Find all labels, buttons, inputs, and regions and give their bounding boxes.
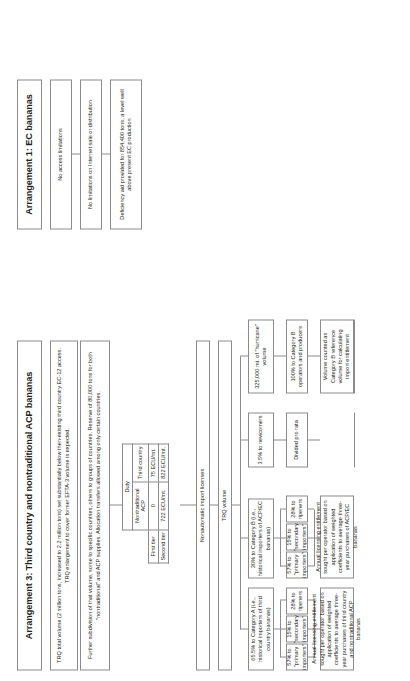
arrangement-1-item-no-internet-limitations: No limitations on Internet sale or distr… <box>80 79 102 229</box>
arrangement-1-title: Arrangement 1: EC bananas <box>17 79 42 229</box>
screenshot-viewport: Arrangement 3: Third country and nontrad… <box>0 0 410 681</box>
arrangement-1-item-no-access-limitations: No access limitations <box>50 79 72 229</box>
diagram-page: Arrangement 3: Third country and nontrad… <box>0 0 410 681</box>
arrangement-1-item-deficiency-aid: Deficiency aid provided for 854,400 tons… <box>110 79 142 229</box>
arrangement-1-connector-1 <box>72 153 80 154</box>
arrangement-1-group: Arrangement 1: EC bananas No access limi… <box>0 0 410 681</box>
arrangement-1-connector-2 <box>102 153 110 154</box>
